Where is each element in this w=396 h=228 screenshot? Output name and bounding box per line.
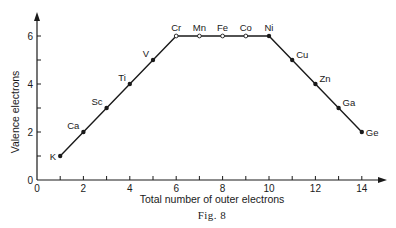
x-tick-label: 12 bbox=[310, 183, 322, 194]
data-point-v bbox=[151, 58, 155, 62]
data-point-zn bbox=[313, 82, 317, 86]
axes bbox=[34, 12, 387, 183]
y-axis-label: Valence electrons bbox=[9, 71, 21, 154]
point-label-cu: Cu bbox=[296, 49, 308, 60]
point-label-co: Co bbox=[240, 22, 252, 33]
point-label-ca: Ca bbox=[67, 120, 80, 131]
point-label-cr: Cr bbox=[171, 22, 181, 33]
y-tick-label: 0 bbox=[27, 175, 33, 186]
series-line bbox=[60, 36, 362, 156]
data-point-co bbox=[244, 34, 248, 38]
data-point-ca bbox=[81, 130, 85, 134]
point-label-fe: Fe bbox=[217, 22, 228, 33]
data-point-ni bbox=[267, 34, 271, 38]
data-point-ti bbox=[128, 82, 132, 86]
y-tick-label: 4 bbox=[27, 79, 33, 90]
data-point-fe bbox=[221, 34, 225, 38]
point-label-sc: Sc bbox=[92, 96, 103, 107]
x-tick-label: 4 bbox=[127, 183, 133, 194]
y-axis-arrow bbox=[34, 12, 40, 21]
data-point-cu bbox=[290, 58, 294, 62]
point-label-zn: Zn bbox=[319, 73, 330, 84]
point-label-ge: Ge bbox=[366, 127, 379, 138]
x-tick-label: 2 bbox=[81, 183, 87, 194]
y-tick-label: 2 bbox=[27, 127, 33, 138]
point-label-k: K bbox=[50, 151, 57, 162]
data-point-mn bbox=[198, 34, 202, 38]
valence-chart: 024681012140246 KCaScTiVCrMnFeCoNiCuZnGa… bbox=[0, 0, 396, 228]
x-tick-label: 0 bbox=[34, 183, 40, 194]
data-point-ga bbox=[336, 106, 340, 110]
point-label-ti: Ti bbox=[118, 72, 126, 83]
x-axis-arrow bbox=[378, 177, 387, 183]
y-tick-label: 6 bbox=[27, 31, 33, 42]
data-point-ge bbox=[360, 130, 364, 134]
data-point-k bbox=[58, 154, 62, 158]
point-label-mn: Mn bbox=[193, 22, 206, 33]
data-point-cr bbox=[174, 34, 178, 38]
x-axis-label: Total number of outer electrons bbox=[140, 193, 285, 205]
data-point-sc bbox=[104, 106, 108, 110]
point-label-ga: Ga bbox=[343, 97, 356, 108]
x-tick-label: 14 bbox=[356, 183, 368, 194]
figure-caption: Fig. 8 bbox=[198, 209, 227, 221]
point-label-v: V bbox=[143, 48, 150, 59]
point-label-ni: Ni bbox=[265, 22, 274, 33]
